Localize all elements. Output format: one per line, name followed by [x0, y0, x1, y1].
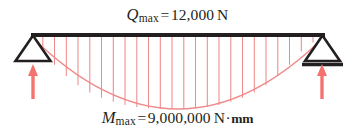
roller-support-triangle	[305, 36, 340, 62]
left-reaction-head	[28, 64, 38, 76]
roller-support	[302, 36, 343, 65]
beam-bending-diagram: Qmax=12,000N Mmax=9,000,000N·mm	[0, 0, 355, 136]
shear-symbol: Q	[127, 5, 139, 24]
left-reaction-arrow	[28, 64, 38, 99]
right-reaction-arrow	[317, 64, 327, 99]
shear-max-label: Qmax=12,000N	[0, 7, 355, 25]
shear-subscript: max	[139, 12, 159, 24]
shear-equals-sign: =	[159, 6, 171, 23]
shear-value: 12,000	[171, 6, 214, 23]
moment-curve	[31, 36, 325, 109]
shear-unit: N	[214, 6, 228, 23]
moment-max-label: Mmax=9,000,000N·mm	[0, 110, 355, 128]
moment-value: 9,000,000	[148, 109, 211, 126]
pin-support	[16, 36, 51, 62]
moment-subscript: max	[116, 115, 136, 127]
moment-unit-length: mm	[231, 111, 253, 126]
moment-equals-sign: =	[136, 109, 148, 126]
moment-diagram-hatching	[43, 37, 313, 109]
pin-support-triangle	[16, 36, 51, 62]
parabolic-moment-diagram	[31, 36, 325, 109]
moment-symbol: M	[102, 108, 116, 127]
moment-unit-force: N	[211, 109, 225, 126]
